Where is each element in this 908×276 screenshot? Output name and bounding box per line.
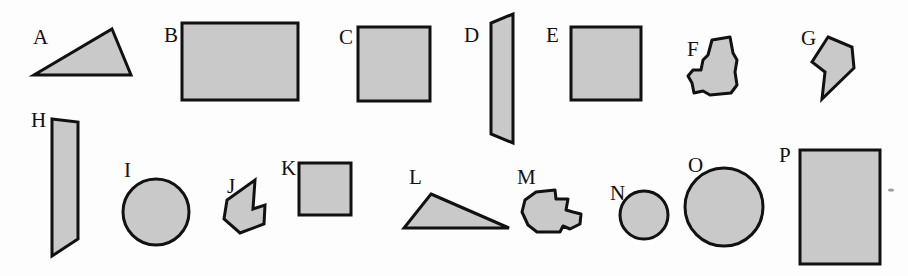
shape-label-a: A [33,25,49,49]
shape-o-circle[interactable] [685,168,763,246]
shape-figure-svg: ABCDEFGHIJKLMNOP [0,0,908,276]
shape-n-circle[interactable] [620,191,668,239]
ink-speck [888,188,894,191]
shape-group-j[interactable]: J [224,174,265,233]
shape-c-square[interactable] [358,27,430,101]
shape-group-a[interactable]: A [33,25,131,75]
shape-m-blob[interactable] [522,190,581,232]
shape-g-polygon[interactable] [812,37,854,99]
shape-label-p: P [779,143,791,167]
shape-p-rectangle[interactable] [800,150,880,264]
shape-group-k[interactable]: K [281,156,351,215]
shape-label-j: J [227,174,235,198]
shape-group-g[interactable]: G [801,26,854,99]
shape-label-k: K [281,156,296,180]
shape-group-l[interactable]: L [404,165,509,228]
shape-group-h[interactable]: H [31,108,78,256]
shape-k-square[interactable] [299,163,351,215]
shape-label-f: F [687,37,699,61]
shape-l-triangle[interactable] [404,194,509,228]
shape-group-f[interactable]: F [687,37,737,95]
shape-b-rectangle[interactable] [182,23,298,100]
shape-e-square[interactable] [571,27,641,100]
shape-label-i: I [124,158,131,182]
shape-label-l: L [409,165,422,189]
shape-group-b[interactable]: B [164,23,298,100]
shape-group-o[interactable]: O [685,153,763,246]
shape-group-e[interactable]: E [546,23,641,100]
shape-group-n[interactable]: N [610,181,668,239]
shape-label-n: N [610,181,625,205]
shape-label-e: E [546,23,559,47]
shape-label-d: D [464,23,479,47]
shape-group-m[interactable]: M [517,165,581,232]
shape-label-b: B [164,23,178,47]
shape-label-g: G [801,26,816,50]
shape-group-c[interactable]: C [339,25,430,101]
shape-a-triangle[interactable] [34,29,131,75]
shape-h-quadrilateral[interactable] [52,119,78,256]
shape-d-quadrilateral[interactable] [491,14,513,143]
shape-group-i[interactable]: I [123,158,189,245]
shape-label-c: C [339,25,353,49]
shape-label-o: O [688,153,703,177]
shape-figure-canvas: ABCDEFGHIJKLMNOP [0,0,908,276]
shape-label-h: H [31,108,46,132]
shape-group-d[interactable]: D [464,14,513,143]
shape-group-p[interactable]: P [779,143,880,264]
shape-label-m: M [517,165,536,189]
shape-i-circle[interactable] [123,179,189,245]
